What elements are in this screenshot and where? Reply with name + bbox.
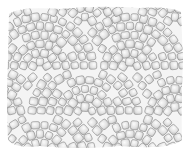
cobblestone <box>22 0 34 1</box>
cobblestone <box>161 0 171 5</box>
cobblestone <box>0 141 3 151</box>
cobblestone <box>31 0 42 8</box>
cobblestone <box>0 51 3 62</box>
cobblestone <box>177 142 186 150</box>
cobblestone <box>41 150 52 160</box>
cobblestone <box>171 0 178 3</box>
cobblestone <box>121 139 131 149</box>
cobblestone <box>36 148 43 155</box>
cobblestone <box>126 130 134 138</box>
cobblestone <box>137 0 148 1</box>
cobblestone <box>71 0 81 5</box>
cobblestone <box>187 69 189 80</box>
cobblestone <box>86 52 96 61</box>
cobblestone <box>161 151 168 159</box>
cobblestone <box>131 14 139 21</box>
cobblestone <box>81 85 88 92</box>
cobblestone <box>100 151 109 160</box>
cobblestone <box>179 151 187 159</box>
cobblestone <box>55 106 63 114</box>
cobblestone <box>40 13 49 21</box>
cobblestone <box>179 0 188 5</box>
cobblestone <box>126 40 135 48</box>
cobblestone <box>161 61 169 69</box>
cobblestone <box>182 98 189 108</box>
cobblestone <box>121 13 131 22</box>
cobblestone <box>0 4 4 14</box>
cobblestone <box>36 130 43 139</box>
cobblestone <box>118 0 128 8</box>
cobblestone <box>182 7 189 18</box>
cobblestone <box>121 49 130 59</box>
cobblestone <box>174 94 184 103</box>
cobblestone <box>80 62 88 70</box>
cobblestone <box>170 152 177 159</box>
cobblestone <box>179 86 189 96</box>
cobblestone <box>7 106 17 115</box>
cobblestone <box>29 97 39 106</box>
cobblestone <box>81 0 89 3</box>
cobblestone <box>0 27 8 38</box>
cobblestone <box>132 151 143 160</box>
cobblestone <box>52 0 63 9</box>
cobblestone <box>166 76 175 85</box>
cobblestone-canvas <box>0 0 189 160</box>
cobblestone <box>42 0 52 8</box>
cobblestone <box>41 122 48 130</box>
cobblestone <box>31 122 40 130</box>
cobblestone <box>19 151 29 160</box>
cobblestone <box>178 61 187 69</box>
cobblestone <box>116 23 125 32</box>
cobblestone <box>151 151 160 160</box>
cobblestone <box>167 52 176 61</box>
cobblestone <box>88 151 98 160</box>
cobblestone <box>47 0 58 1</box>
cobblestone <box>1 151 10 159</box>
cobblestone <box>142 151 151 160</box>
cobblestone <box>0 132 8 143</box>
cobblestone <box>0 0 9 5</box>
cobblestone <box>106 106 114 115</box>
cobblestone <box>87 142 95 150</box>
cobblestone <box>11 0 22 3</box>
cobblestone <box>79 151 88 159</box>
cobblestone <box>52 62 61 70</box>
cobblestone <box>126 22 134 30</box>
cobblestone <box>109 151 119 160</box>
cobblestone <box>0 61 1 69</box>
cobblestone <box>85 76 94 84</box>
cobblestone <box>45 22 54 32</box>
cobblestone <box>187 15 189 26</box>
cobblestone <box>187 105 189 115</box>
cobblestone <box>134 106 143 114</box>
cobblestone <box>115 106 124 115</box>
cobblestone <box>36 40 45 48</box>
cobblestone <box>131 31 138 39</box>
cobblestone <box>41 31 49 40</box>
cobblestone <box>61 150 71 160</box>
cobblestone <box>0 106 7 116</box>
cobblestone <box>0 94 4 103</box>
cobblestone <box>176 76 184 84</box>
cobblestone <box>70 61 78 69</box>
cobblestone <box>2 62 9 70</box>
cobblestone <box>89 61 97 69</box>
cobblestone <box>9 151 19 160</box>
cobblestone <box>37 107 46 115</box>
cobblestone <box>169 61 178 70</box>
cobblestone <box>71 151 79 160</box>
cobblestone <box>121 31 131 39</box>
cobblestone <box>126 148 135 156</box>
cobblestone <box>51 150 61 160</box>
cobblestone <box>100 0 112 3</box>
cobblestone <box>6 0 18 11</box>
cobblestone <box>142 0 152 9</box>
cobblestone <box>36 22 44 31</box>
cobblestone <box>0 43 7 53</box>
cobblestone <box>151 61 160 69</box>
cobblestone <box>118 151 128 160</box>
stone-pattern <box>0 0 189 160</box>
cobblestone <box>61 61 70 71</box>
cobblestone <box>184 78 189 88</box>
cobblestone <box>76 75 86 85</box>
